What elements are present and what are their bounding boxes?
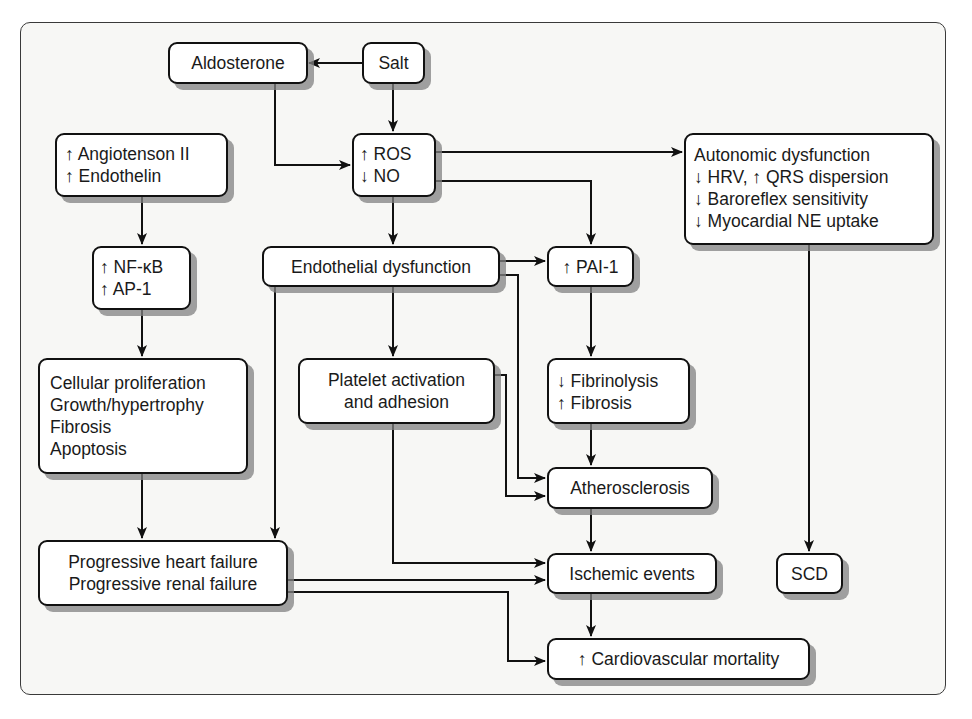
node-label: Aldosterone <box>191 52 284 74</box>
node-nfkb: ↑ NF-κB ↑ AP-1 <box>92 246 191 310</box>
node-salt: Salt <box>362 42 425 84</box>
node-label: ↓ Fibrinolysis <box>557 370 680 392</box>
node-platelet-activation: Platelet activation and adhesion <box>298 358 495 424</box>
node-cardiovascular-mortality: ↑ Cardiovascular mortality <box>547 638 810 680</box>
node-label: ↓ HRV, ↑ QRS dispersion <box>694 166 924 188</box>
node-label: Atherosclerosis <box>570 477 690 499</box>
edge-ros-pai1 <box>436 181 591 244</box>
node-aldosterone: Aldosterone <box>168 42 308 84</box>
node-endothelial-dysfunction: Endothelial dysfunction <box>262 246 500 287</box>
node-label: Endothelial dysfunction <box>291 256 471 278</box>
node-fibrinolysis: ↓ Fibrinolysis ↑ Fibrosis <box>547 358 690 424</box>
node-label: Cellular proliferation <box>50 372 236 394</box>
node-label: ↑ ROS <box>360 143 428 165</box>
node-label: ↑ Endothelin <box>65 165 218 187</box>
node-label: ↑ NF-κB <box>100 256 183 278</box>
node-label: Autonomic dysfunction <box>694 144 924 166</box>
node-label: ↑ PAI-1 <box>562 256 618 278</box>
node-label: ↓ Myocardial NE uptake <box>694 210 924 232</box>
node-label: ↑ Fibrosis <box>557 392 680 414</box>
node-label: Salt <box>378 52 408 74</box>
node-cellular-proliferation: Cellular proliferation Growth/hypertroph… <box>38 358 248 474</box>
edge-platelet-ischemic <box>393 424 545 563</box>
node-progressive-failure: Progressive heart failure Progressive re… <box>38 540 288 606</box>
node-label: SCD <box>791 563 828 585</box>
node-angiotensin: ↑ Angiotenson II ↑ Endothelin <box>55 133 228 197</box>
node-scd: SCD <box>776 553 843 594</box>
node-label: Platelet activation <box>328 369 465 391</box>
node-label: Ischemic events <box>569 563 694 585</box>
node-label: Progressive renal failure <box>69 573 258 595</box>
node-pai1: ↑ PAI-1 <box>547 246 634 287</box>
node-ros-no: ↑ ROS ↓ NO <box>352 133 436 197</box>
node-label: Growth/hypertrophy <box>50 394 236 416</box>
node-label: ↑ AP-1 <box>100 278 183 300</box>
node-ischemic-events: Ischemic events <box>547 553 717 594</box>
node-atherosclerosis: Atherosclerosis <box>547 467 713 509</box>
node-label: ↑ Cardiovascular mortality <box>578 648 779 670</box>
node-label: Apoptosis <box>50 438 236 460</box>
node-label: Progressive heart failure <box>68 551 258 573</box>
node-label: and adhesion <box>344 391 449 413</box>
node-label: ↑ Angiotenson II <box>65 143 218 165</box>
node-label: Fibrosis <box>50 416 236 438</box>
node-autonomic-dysfunction: Autonomic dysfunction ↓ HRV, ↑ QRS dispe… <box>684 133 934 245</box>
edge-progressive-cvmortality <box>287 592 545 661</box>
edge-aldosterone-ros <box>275 84 350 165</box>
node-label: ↓ NO <box>360 165 428 187</box>
node-label: ↓ Baroreflex sensitivity <box>694 188 924 210</box>
